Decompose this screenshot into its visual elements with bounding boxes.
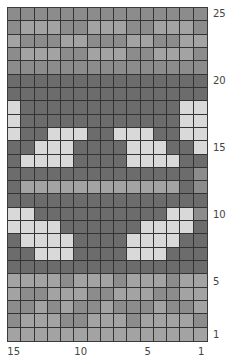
stitch-cell [88,75,101,88]
stitch-cell [35,8,48,21]
stitch-cell [154,128,167,141]
stitch-cell [180,274,193,287]
stitch-cell [154,221,167,234]
stitch-cell [194,168,207,181]
stitch-cell [194,248,207,261]
stitch-cell [21,61,34,74]
stitch-cell [180,88,193,101]
stitch-cell [35,61,48,74]
stitch-cell [141,194,154,207]
stitch-cell [35,328,48,341]
stitch-cell [154,101,167,114]
stitch-cell [141,128,154,141]
stitch-cell [167,8,180,21]
stitch-cell [127,141,140,154]
stitch-cell [141,221,154,234]
stitch-cell [35,301,48,314]
stitch-cell [8,8,21,21]
stitch-cell [114,181,127,194]
stitch-cell [21,8,34,21]
stitch-cell [35,221,48,234]
stitch-cell [127,301,140,314]
stitch-cell [61,248,74,261]
stitch-cell [180,155,193,168]
stitch-cell [141,248,154,261]
stitch-cell [154,234,167,247]
stitch-cell [48,21,61,34]
stitch-cell [35,141,48,154]
stitch-cell [167,288,180,301]
stitch-cell [88,61,101,74]
stitch-cell [154,328,167,341]
stitch-cell [48,35,61,48]
stitch-cell [61,208,74,221]
stitch-cell [154,48,167,61]
stitch-cell [154,35,167,48]
stitch-cell [8,61,21,74]
stitch-cell [141,261,154,274]
stitch-cell [114,288,127,301]
stitch-cell [194,208,207,221]
stitch-cell [194,101,207,114]
stitch-cell [180,248,193,261]
stitch-cell [194,314,207,327]
stitch-cell [88,194,101,207]
stitch-cell [127,234,140,247]
stitch-cell [180,115,193,128]
stitch-cell [74,274,87,287]
stitch-cell [8,168,21,181]
stitch-cell [35,234,48,247]
stitch-cell [141,21,154,34]
stitch-cell [114,168,127,181]
stitch-cell [180,21,193,34]
stitch-cell [8,48,21,61]
stitch-cell [180,168,193,181]
stitch-cell [101,48,114,61]
stitch-cell [141,48,154,61]
knitting-chart-grid [7,7,208,342]
stitch-cell [194,261,207,274]
stitch-cell [21,35,34,48]
stitch-cell [8,35,21,48]
stitch-cell [180,181,193,194]
stitch-cell [61,101,74,114]
stitch-cell [154,88,167,101]
stitch-cell [167,234,180,247]
stitch-cell [74,8,87,21]
stitch-cell [21,248,34,261]
stitch-cell [114,155,127,168]
stitch-cell [194,75,207,88]
stitch-cell [167,128,180,141]
stitch-cell [35,155,48,168]
column-number-label: 5 [145,347,151,357]
stitch-cell [48,141,61,154]
stitch-cell [61,181,74,194]
stitch-cell [74,314,87,327]
stitch-cell [48,221,61,234]
stitch-cell [194,194,207,207]
row-number-label: 5 [213,277,219,287]
stitch-cell [101,168,114,181]
stitch-cell [194,141,207,154]
stitch-cell [141,208,154,221]
stitch-cell [35,288,48,301]
stitch-cell [194,35,207,48]
row-number-label: 20 [213,76,226,86]
stitch-cell [61,314,74,327]
stitch-cell [48,194,61,207]
stitch-cell [8,301,21,314]
stitch-cell [167,261,180,274]
stitch-cell [21,208,34,221]
stitch-cell [35,115,48,128]
stitch-cell [141,328,154,341]
stitch-cell [48,128,61,141]
stitch-cell [114,314,127,327]
stitch-cell [127,208,140,221]
stitch-cell [74,101,87,114]
stitch-cell [141,75,154,88]
stitch-cell [21,21,34,34]
stitch-cell [88,181,101,194]
stitch-cell [21,194,34,207]
stitch-cell [101,8,114,21]
stitch-cell [114,21,127,34]
